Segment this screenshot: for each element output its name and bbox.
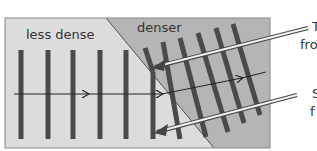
denser-label: denser (137, 21, 182, 34)
side-label-bottom: S (312, 87, 317, 100)
side-label-bottom-line2: f (310, 105, 315, 118)
side-label-top-line2: fro (300, 38, 317, 51)
side-label-top: T (312, 20, 317, 33)
less-dense-label: less dense (26, 28, 95, 41)
